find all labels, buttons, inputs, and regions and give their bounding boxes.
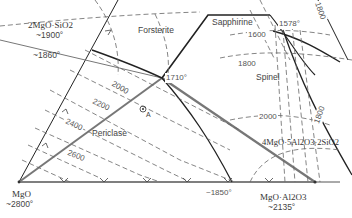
field-spinel: Spinel <box>256 72 280 82</box>
spinel-formula: MgO·Al2O3 <box>260 192 307 202</box>
point-1850: ~1850° <box>205 188 233 198</box>
point-1578: 1578° <box>278 19 301 29</box>
cordierite-formula: 4MgO·5Al2O3·2SiO2 <box>262 137 339 147</box>
forsterite-formula: 2MgO·SiO2 <box>28 20 73 30</box>
phase-diagram: 2MgO·SiO2 ~1900° ~1860° Forsterite Sapph… <box>0 0 352 218</box>
point-A-label: A <box>146 110 151 120</box>
forsterite-temp: ~1900° <box>36 30 63 40</box>
field-forsterite: Forsterite <box>138 25 174 35</box>
field-sapphirine: Sapphirine <box>212 17 253 27</box>
spinel-temp: ~2135° <box>268 202 295 212</box>
field-periclase: Periclase <box>92 128 127 138</box>
point-1710: 1710° <box>165 73 188 83</box>
isotherm-1800-a: 1800 <box>237 59 257 69</box>
isotherm-2000-a: 2000 <box>258 112 278 122</box>
eutectic-left-temp: ~1860° <box>33 50 60 60</box>
isotherm-1600: 1600 <box>247 30 267 40</box>
mgo-formula: MgO <box>12 189 31 199</box>
mgo-temp: ~2800° <box>6 199 33 209</box>
